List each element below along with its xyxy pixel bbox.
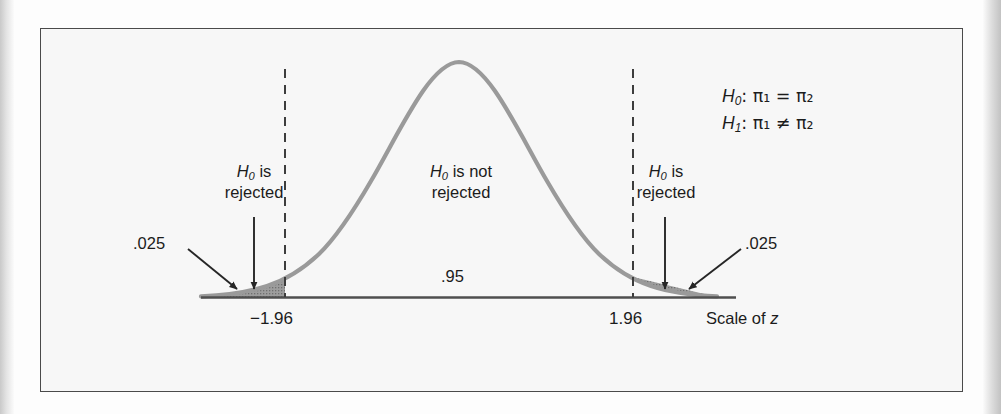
alternative-hypothesis: H1: π₁ ≠ π₂	[722, 111, 814, 138]
left-tail-probability-arrow	[188, 249, 237, 289]
right-rejection-line-1: H0 is	[606, 162, 726, 183]
left-critical-value-tick: −1.96	[250, 309, 293, 328]
left-tail-probability: .025	[133, 234, 165, 252]
right-h0-verb: is	[667, 162, 684, 180]
null-hypothesis: H0: π₁ = π₂	[722, 84, 814, 111]
left-rejection-line-2: rejected	[194, 183, 314, 201]
center-h0-verb: is not	[448, 162, 492, 180]
axis-title-prefix: Scale of	[706, 309, 770, 327]
figure-page: H0: π₁ = π₂ H1: π₁ ≠ π₂ H0 is rejected H…	[0, 0, 1001, 414]
figure-frame: H0: π₁ = π₂ H1: π₁ ≠ π₂ H0 is rejected H…	[40, 28, 963, 392]
right-rejection-label: H0 is rejected	[606, 162, 726, 201]
scan-edge-band-right	[983, 0, 1001, 414]
left-h0-symbol: H	[237, 162, 249, 180]
center-nonrejection-label: H0 is not rejected	[386, 162, 536, 201]
center-probability: .95	[441, 267, 464, 285]
right-rejection-line-2: rejected	[606, 183, 726, 201]
axis-title-variable: z	[770, 309, 778, 327]
left-h0-verb: is	[255, 162, 272, 180]
null-hypothesis-symbol: H	[722, 86, 735, 106]
normal-distribution-plot	[41, 29, 964, 393]
center-line-2: rejected	[386, 183, 536, 201]
alt-hypothesis-statement: : π₁ ≠ π₂	[741, 113, 813, 133]
axis-title: Scale of z	[706, 309, 778, 327]
right-h0-symbol: H	[649, 162, 661, 180]
null-hypothesis-statement: : π₁ = π₂	[741, 86, 813, 106]
right-tail-probability: .025	[745, 234, 777, 252]
left-rejection-label: H0 is rejected	[194, 162, 314, 201]
hypothesis-block: H0: π₁ = π₂ H1: π₁ ≠ π₂	[722, 84, 814, 137]
right-tail-probability-arrow	[689, 249, 741, 289]
center-h0-symbol: H	[430, 162, 442, 180]
right-critical-value-tick: 1.96	[609, 309, 642, 328]
center-line-1: H0 is not	[386, 162, 536, 183]
alt-hypothesis-symbol: H	[722, 113, 735, 133]
scan-edge-band-left	[0, 0, 14, 414]
left-rejection-line-1: H0 is	[194, 162, 314, 183]
